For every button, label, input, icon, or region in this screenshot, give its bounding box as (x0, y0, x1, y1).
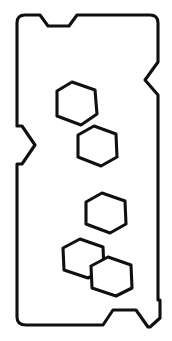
outline-drawing-svg (0, 0, 172, 341)
hexagon-hole-3 (86, 193, 126, 233)
hexagon-hole-2 (78, 126, 117, 166)
drawing-canvas (0, 0, 172, 341)
hexagon-hole-1 (57, 82, 97, 125)
plate-body-fill (17, 15, 160, 327)
hexagon-hole-5 (91, 257, 132, 296)
